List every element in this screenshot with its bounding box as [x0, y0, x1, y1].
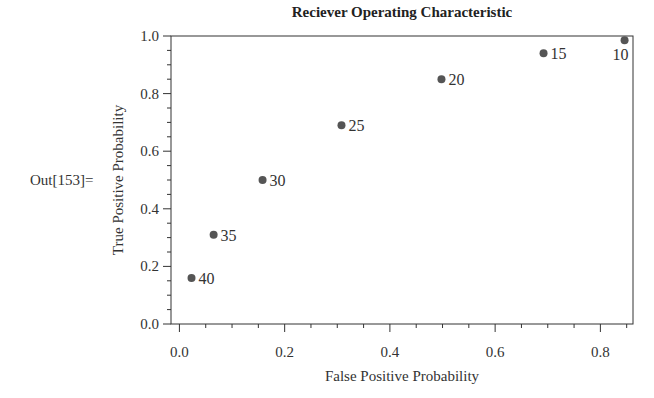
data-point-label: 15	[551, 45, 567, 62]
data-point: 20	[437, 71, 464, 88]
x-tick-label: 0.4	[381, 344, 400, 360]
data-point-label: 25	[348, 117, 364, 134]
x-tick-label: 0.6	[486, 344, 505, 360]
roc-chart: Reciever Operating Characteristic 0.00.2…	[0, 0, 654, 398]
x-tick-label: 0.8	[591, 344, 610, 360]
y-tick-label: 0.8	[140, 86, 159, 102]
x-axis-label: False Positive Probability	[325, 368, 480, 384]
plot-frame	[171, 36, 633, 324]
chart-title: Reciever Operating Characteristic	[292, 4, 513, 20]
y-tick-label: 0.0	[140, 316, 159, 332]
y-axis: 0.00.20.40.60.81.0	[140, 28, 171, 332]
y-tick-label: 0.6	[140, 143, 159, 159]
data-point: 25	[337, 117, 364, 134]
data-points: 40353025201510	[188, 36, 629, 287]
x-axis: 0.00.20.40.60.8	[170, 324, 627, 360]
y-tick-label: 0.4	[140, 201, 159, 217]
x-tick-label: 0.2	[275, 344, 294, 360]
y-tick-label: 1.0	[140, 28, 159, 44]
data-point: 35	[210, 227, 237, 244]
data-point-label: 40	[199, 270, 215, 287]
data-point-label: 35	[221, 227, 237, 244]
data-point: 15	[540, 45, 567, 62]
y-axis-label: True Positive Probability	[110, 104, 126, 255]
y-tick-label: 0.2	[140, 258, 159, 274]
data-point: 30	[259, 172, 286, 189]
data-point-label: 30	[270, 172, 286, 189]
data-point-label: 20	[448, 71, 464, 88]
data-point-label: 10	[613, 46, 629, 63]
data-point: 40	[188, 270, 215, 287]
x-tick-label: 0.0	[170, 344, 189, 360]
data-point: 10	[613, 36, 629, 63]
